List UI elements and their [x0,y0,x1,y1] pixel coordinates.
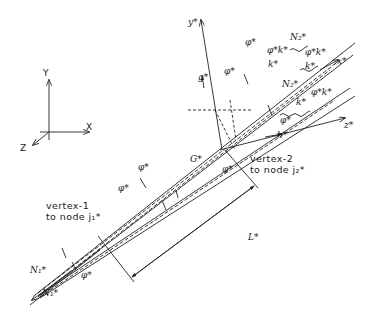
local-y-axis [201,20,222,150]
local-z-label: z* [344,121,353,130]
phi-a-label: φ* [224,67,235,76]
phi-f-label: φ* [81,271,92,280]
h-label: h* [277,131,287,140]
k-top2-label: k* [268,60,278,69]
global-x-label: X [86,123,92,132]
g-label: g* [198,73,208,82]
G-label: G* [190,155,202,164]
N-bot1-label: N₁* [30,266,46,275]
N-mid-label: N₂* [282,80,298,89]
phi-b-label: φ* [280,116,291,125]
phi-e-label: φ* [222,165,233,174]
k-top4-label: k* [305,62,315,71]
k-top3-label: φ*k* [305,48,326,57]
k-mid1-label: φ*k* [311,88,332,97]
local-x-label: x* [337,57,347,66]
vertex2-note: vertex-2 to node j₂* [250,153,305,175]
element-bundle [30,43,355,305]
global-y-label: Y [43,69,49,78]
global-axes-icon [33,80,89,145]
global-z-label: Z [20,144,26,153]
N-bot2-label: N₁* [42,289,58,298]
N-top-label: N₂* [290,33,306,42]
k-top1-label: φ*k* [267,46,288,55]
phi-d-label: φ* [118,184,129,193]
length-label: L* [248,233,258,242]
phi-top-label: φ* [245,38,256,47]
vertex1-note: vertex-1 to node j₁* [46,200,101,222]
phi-c-label: φ* [138,163,149,172]
local-y-label: y* [188,18,198,27]
k-mid2-label: k* [296,98,306,107]
